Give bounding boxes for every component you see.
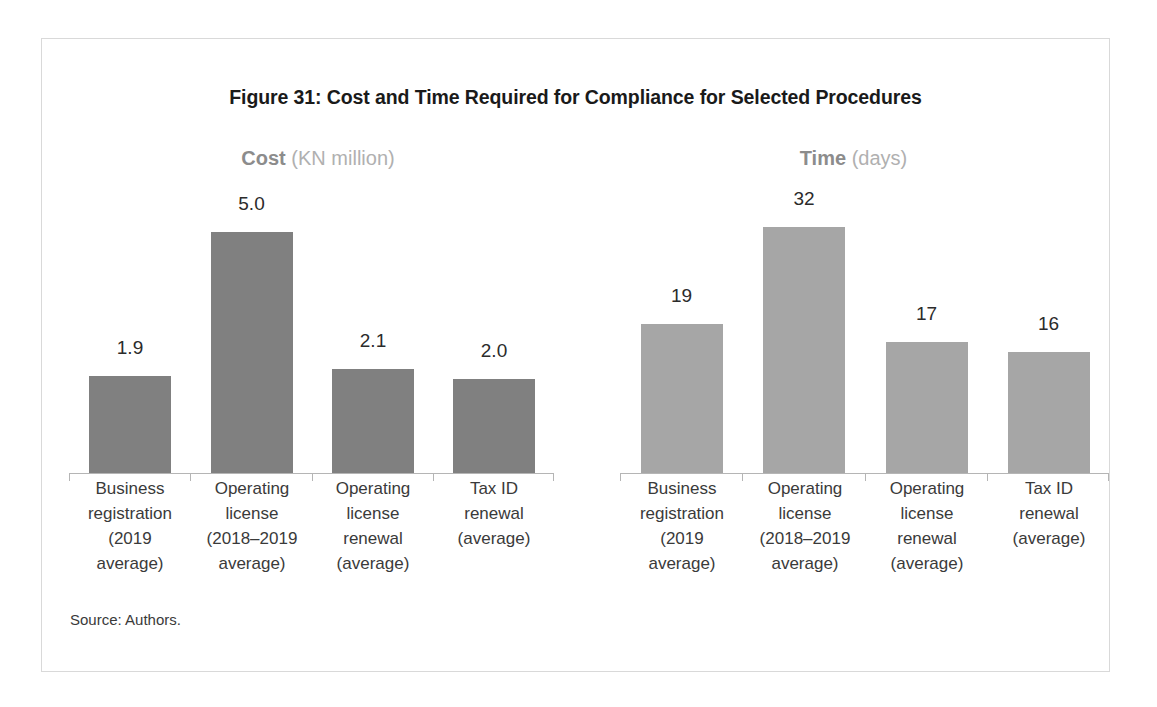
bar-time-operating-license[interactable] — [763, 227, 845, 473]
bar-slot-cost-2: 2.1 — [312, 39, 434, 473]
figure-container: Figure 31: Cost and Time Required for Co… — [41, 38, 1110, 672]
category-labels-cost: Business registration (2019 average) Ope… — [42, 476, 594, 606]
bar-cost-operating-license[interactable] — [211, 232, 293, 473]
bar-slot-cost-0: 1.9 — [69, 39, 191, 473]
bar-slot-time-1: 32 — [743, 39, 865, 473]
bar-group-cost: 1.9 5.0 2.1 2.0 — [42, 39, 594, 473]
panel-time: Time (days) 19 32 — [596, 39, 1111, 671]
bar-cost-tax-id-renewal[interactable] — [453, 379, 535, 473]
bar-value-cost-1: 5.0 — [238, 193, 264, 215]
bar-slot-cost-1: 5.0 — [191, 39, 312, 473]
category-label-time-1: Operating license (2018–2019 average) — [741, 476, 869, 576]
bar-slot-time-0: 19 — [620, 39, 743, 473]
panel-cost: Cost (KN million) 1.9 5.0 — [42, 39, 594, 671]
bar-slot-time-3: 16 — [988, 39, 1109, 473]
x-axis-cost — [69, 473, 554, 474]
category-label-cost-3: Tax ID renewal (average) — [432, 476, 556, 551]
bar-value-time-1: 32 — [793, 188, 814, 210]
bar-slot-time-2: 17 — [865, 39, 988, 473]
bar-value-cost-2: 2.1 — [360, 330, 386, 352]
plot-area-time: 19 32 17 16 — [596, 39, 1111, 474]
category-label-cost-0: Business registration (2019 average) — [64, 476, 196, 576]
bar-time-operating-license-renewal[interactable] — [886, 342, 968, 473]
bar-value-time-3: 16 — [1038, 313, 1059, 335]
bar-group-time: 19 32 17 16 — [596, 39, 1111, 473]
bar-value-time-2: 17 — [916, 303, 937, 325]
bar-value-cost-0: 1.9 — [117, 337, 143, 359]
bar-cost-business-registration[interactable] — [89, 376, 171, 473]
bar-time-business-registration[interactable] — [641, 324, 723, 473]
bar-time-tax-id-renewal[interactable] — [1008, 352, 1090, 473]
category-label-cost-2: Operating license renewal (average) — [310, 476, 436, 576]
category-label-time-3: Tax ID renewal (average) — [987, 476, 1111, 551]
bar-slot-cost-3: 2.0 — [434, 39, 554, 473]
category-label-cost-1: Operating license (2018–2019 average) — [188, 476, 316, 576]
x-axis-time — [620, 473, 1109, 474]
plot-area-cost: 1.9 5.0 2.1 2.0 — [42, 39, 594, 474]
source-note: Source: Authors. — [70, 611, 181, 628]
bar-cost-operating-license-renewal[interactable] — [332, 369, 414, 473]
category-label-time-2: Operating license renewal (average) — [864, 476, 990, 576]
category-labels-time: Business registration (2019 average) Ope… — [596, 476, 1111, 606]
bar-value-time-0: 19 — [671, 285, 692, 307]
category-label-time-0: Business registration (2019 average) — [616, 476, 748, 576]
bar-value-cost-3: 2.0 — [481, 340, 507, 362]
